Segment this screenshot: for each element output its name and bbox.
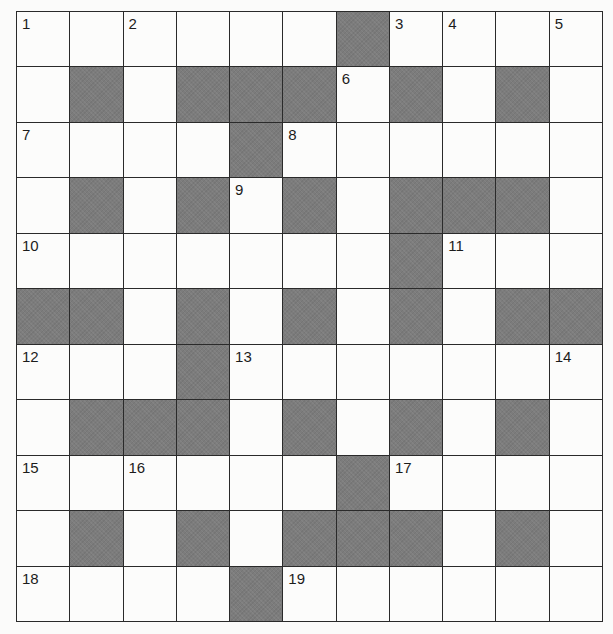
answer-cell[interactable] (230, 456, 282, 510)
answer-cell[interactable] (337, 289, 389, 343)
answer-cell[interactable] (230, 289, 282, 343)
answer-cell[interactable] (496, 234, 548, 288)
answer-cell[interactable] (496, 12, 548, 66)
answer-cell[interactable] (337, 400, 389, 454)
answer-cell[interactable] (124, 178, 176, 232)
answer-cell[interactable] (443, 511, 495, 565)
cell-letter (70, 234, 122, 288)
answer-cell[interactable]: 19 (283, 567, 335, 621)
cell-letter (17, 123, 69, 177)
answer-cell[interactable] (70, 123, 122, 177)
answer-cell[interactable]: 16 (124, 456, 176, 510)
answer-cell[interactable] (550, 400, 602, 454)
answer-cell[interactable]: 3 (390, 12, 442, 66)
answer-cell[interactable] (177, 12, 229, 66)
answer-cell[interactable]: 6 (337, 67, 389, 121)
answer-cell[interactable] (124, 234, 176, 288)
answer-cell[interactable] (443, 123, 495, 177)
answer-cell[interactable]: 9 (230, 178, 282, 232)
answer-cell[interactable] (337, 567, 389, 621)
answer-cell[interactable] (390, 567, 442, 621)
answer-cell[interactable] (230, 12, 282, 66)
answer-cell[interactable] (70, 567, 122, 621)
cell-letter (550, 234, 602, 288)
answer-cell[interactable]: 4 (443, 12, 495, 66)
answer-cell[interactable] (177, 567, 229, 621)
cell-letter (124, 234, 176, 288)
answer-cell[interactable] (283, 12, 335, 66)
answer-cell[interactable] (337, 234, 389, 288)
cell-letter (337, 178, 389, 232)
cell-letter (124, 567, 176, 621)
answer-cell[interactable] (17, 400, 69, 454)
answer-cell[interactable] (550, 567, 602, 621)
answer-cell[interactable]: 11 (443, 234, 495, 288)
answer-cell[interactable]: 2 (124, 12, 176, 66)
answer-cell[interactable]: 17 (390, 456, 442, 510)
answer-cell[interactable] (390, 345, 442, 399)
answer-cell[interactable]: 15 (17, 456, 69, 510)
answer-cell[interactable] (70, 456, 122, 510)
answer-cell[interactable] (17, 178, 69, 232)
block-cell (390, 67, 442, 121)
answer-cell[interactable] (230, 400, 282, 454)
answer-cell[interactable] (443, 345, 495, 399)
answer-cell[interactable]: 1 (17, 12, 69, 66)
answer-cell[interactable] (124, 67, 176, 121)
answer-cell[interactable] (70, 12, 122, 66)
answer-cell[interactable]: 12 (17, 345, 69, 399)
answer-cell[interactable]: 8 (283, 123, 335, 177)
answer-cell[interactable] (496, 567, 548, 621)
answer-cell[interactable] (283, 234, 335, 288)
answer-cell[interactable] (390, 123, 442, 177)
answer-cell[interactable] (124, 289, 176, 343)
answer-cell[interactable] (550, 123, 602, 177)
cell-letter (70, 123, 122, 177)
answer-cell[interactable] (124, 567, 176, 621)
answer-cell[interactable] (550, 178, 602, 232)
answer-cell[interactable] (177, 234, 229, 288)
block-cell (70, 289, 122, 343)
answer-cell[interactable] (17, 67, 69, 121)
answer-cell[interactable] (496, 456, 548, 510)
answer-cell[interactable] (550, 234, 602, 288)
cell-letter (124, 67, 176, 121)
cell-letter (550, 67, 602, 121)
answer-cell[interactable]: 10 (17, 234, 69, 288)
answer-cell[interactable] (230, 234, 282, 288)
answer-cell[interactable] (70, 234, 122, 288)
answer-cell[interactable] (550, 511, 602, 565)
answer-cell[interactable] (550, 456, 602, 510)
answer-cell[interactable] (496, 345, 548, 399)
answer-cell[interactable] (17, 511, 69, 565)
cell-letter (443, 12, 495, 66)
answer-cell[interactable] (443, 400, 495, 454)
answer-cell[interactable]: 5 (550, 12, 602, 66)
answer-cell[interactable]: 18 (17, 567, 69, 621)
answer-cell[interactable]: 14 (550, 345, 602, 399)
block-cell (230, 67, 282, 121)
answer-cell[interactable]: 13 (230, 345, 282, 399)
answer-cell[interactable] (337, 345, 389, 399)
answer-cell[interactable] (124, 511, 176, 565)
answer-cell[interactable] (124, 345, 176, 399)
answer-cell[interactable]: 7 (17, 123, 69, 177)
answer-cell[interactable] (70, 345, 122, 399)
block-cell (177, 178, 229, 232)
answer-cell[interactable] (283, 456, 335, 510)
answer-cell[interactable] (177, 456, 229, 510)
answer-cell[interactable] (443, 67, 495, 121)
answer-cell[interactable] (177, 123, 229, 177)
answer-cell[interactable] (443, 289, 495, 343)
block-cell (550, 289, 602, 343)
answer-cell[interactable] (337, 123, 389, 177)
answer-cell[interactable] (550, 67, 602, 121)
answer-cell[interactable] (283, 345, 335, 399)
answer-cell[interactable] (124, 123, 176, 177)
answer-cell[interactable] (443, 567, 495, 621)
answer-cell[interactable] (496, 123, 548, 177)
cell-letter (283, 12, 335, 66)
answer-cell[interactable] (337, 178, 389, 232)
answer-cell[interactable] (443, 456, 495, 510)
answer-cell[interactable] (230, 511, 282, 565)
